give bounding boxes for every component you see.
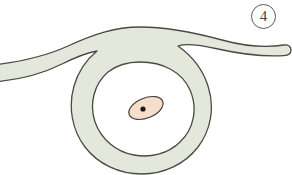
nucleolus: [140, 106, 145, 111]
figure-number-label: 4: [260, 9, 268, 24]
cell-diagram: [0, 0, 292, 175]
figure-number-badge: 4: [251, 4, 276, 29]
figure-container: 4: [0, 0, 292, 175]
diagram-background: [0, 0, 292, 175]
